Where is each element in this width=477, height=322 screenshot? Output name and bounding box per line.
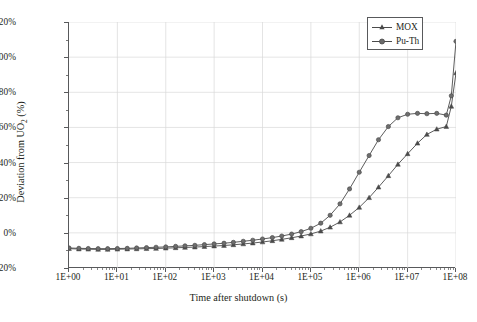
- x-minor-tick: [150, 268, 151, 270]
- legend-label-puth: Pu-Th: [396, 36, 419, 46]
- x-minor-tick: [295, 268, 296, 270]
- y-tick-mark: [64, 198, 68, 199]
- x-minor-tick: [387, 268, 388, 270]
- x-minor-tick: [188, 268, 189, 270]
- y-tick-label: 80%: [0, 87, 16, 97]
- x-tick-label: 1E+03: [201, 272, 226, 282]
- x-tick-mark: [310, 268, 311, 272]
- x-minor-tick: [299, 268, 300, 270]
- x-minor-tick: [430, 268, 431, 270]
- x-minor-tick: [206, 268, 207, 270]
- x-minor-tick: [160, 268, 161, 270]
- x-minor-tick: [247, 268, 248, 270]
- y-minor-tick: [66, 215, 69, 216]
- x-minor-tick: [276, 268, 277, 270]
- x-minor-tick: [154, 268, 155, 270]
- x-minor-tick: [356, 268, 357, 270]
- x-minor-tick: [436, 268, 437, 270]
- x-minor-tick: [202, 268, 203, 270]
- x-minor-tick: [354, 268, 355, 270]
- y-tick-mark: [64, 127, 68, 128]
- x-minor-tick: [139, 268, 140, 270]
- x-minor-tick: [211, 268, 212, 270]
- x-minor-tick: [344, 268, 345, 270]
- x-tick-label: 1E+00: [56, 272, 81, 282]
- x-minor-tick: [91, 268, 92, 270]
- x-minor-tick: [257, 268, 258, 270]
- x-minor-tick: [339, 268, 340, 270]
- x-minor-tick: [163, 268, 164, 270]
- y-tick-mark: [64, 22, 68, 23]
- y-tick-mark: [64, 92, 68, 93]
- x-minor-tick: [399, 268, 400, 270]
- x-minor-tick: [251, 268, 252, 270]
- x-minor-tick: [381, 268, 382, 270]
- chart-legend: MOX Pu-Th: [367, 17, 423, 50]
- x-minor-tick: [179, 268, 180, 270]
- x-minor-tick: [145, 268, 146, 270]
- x-minor-tick: [285, 268, 286, 270]
- x-tick-label: 1E+01: [104, 272, 129, 282]
- legend-item-mox: MOX: [371, 20, 422, 34]
- y-tick-label: 40%: [0, 158, 16, 168]
- x-minor-tick: [402, 268, 403, 270]
- y-tick-mark: [64, 233, 68, 234]
- x-minor-tick: [450, 268, 451, 270]
- legend-label-mox: MOX: [396, 22, 418, 32]
- y-tick-label: 20%: [0, 193, 16, 203]
- x-tick-mark: [455, 268, 456, 272]
- x-minor-tick: [112, 268, 113, 270]
- y-minor-tick: [66, 180, 69, 181]
- y-tick-label: 120%: [0, 17, 16, 27]
- y-tick-label: 0%: [0, 228, 16, 238]
- plot-area: [68, 22, 455, 268]
- legend-item-puth: Pu-Th: [371, 34, 422, 48]
- y-minor-tick: [66, 110, 69, 111]
- x-minor-tick: [106, 268, 107, 270]
- x-minor-tick: [194, 268, 195, 270]
- y-tick-label: 100%: [0, 52, 16, 62]
- x-minor-tick: [102, 268, 103, 270]
- x-tick-mark: [358, 268, 359, 272]
- x-tick-mark: [407, 268, 408, 272]
- x-tick-mark: [213, 268, 214, 272]
- x-minor-tick: [97, 268, 98, 270]
- y-axis-label: Deviation from UO2 (%): [15, 37, 29, 267]
- x-minor-tick: [109, 268, 110, 270]
- data-series: [69, 22, 456, 268]
- x-tick-label: 1E+02: [152, 272, 177, 282]
- x-minor-tick: [302, 268, 303, 270]
- x-minor-tick: [373, 268, 374, 270]
- x-minor-tick: [421, 268, 422, 270]
- x-tick-label: 1E+05: [297, 272, 322, 282]
- x-tick-mark: [262, 268, 263, 272]
- x-minor-tick: [242, 268, 243, 270]
- x-tick-mark: [68, 268, 69, 272]
- y-tick-label: -20%: [0, 263, 16, 273]
- x-minor-tick: [228, 268, 229, 270]
- x-tick-label: 1E+06: [346, 272, 371, 282]
- x-minor-tick: [254, 268, 255, 270]
- x-minor-tick: [324, 268, 325, 270]
- x-minor-tick: [333, 268, 334, 270]
- x-tick-label: 1E+08: [443, 272, 468, 282]
- x-tick-mark: [165, 268, 166, 272]
- chart-figure: -20%0%20%40%60%80%100%120% 1E+001E+011E+…: [0, 0, 477, 322]
- y-minor-tick: [66, 75, 69, 76]
- x-minor-tick: [404, 268, 405, 270]
- y-minor-tick: [66, 145, 69, 146]
- legend-marker-circle-icon: [371, 36, 393, 47]
- y-tick-label: 60%: [0, 122, 16, 132]
- x-minor-tick: [348, 268, 349, 270]
- x-minor-tick: [308, 268, 309, 270]
- x-minor-tick: [157, 268, 158, 270]
- x-tick-label: 1E+07: [394, 272, 419, 282]
- x-axis-label: Time after shutdown (s): [0, 292, 477, 303]
- x-minor-tick: [199, 268, 200, 270]
- x-minor-tick: [259, 268, 260, 270]
- y-minor-tick: [66, 40, 69, 41]
- x-minor-tick: [114, 268, 115, 270]
- x-minor-tick: [444, 268, 445, 270]
- x-minor-tick: [208, 268, 209, 270]
- x-tick-mark: [116, 268, 117, 272]
